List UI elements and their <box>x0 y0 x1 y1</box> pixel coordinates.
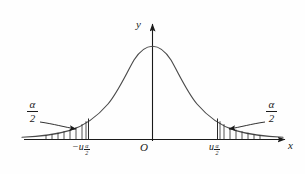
left-area-denominator: 2 <box>27 112 38 124</box>
left-area-numerator: α <box>27 99 38 111</box>
x-axis-label: x <box>288 140 293 151</box>
y-axis-label: y <box>136 19 141 30</box>
right-tick-subscript: α2 <box>214 143 220 156</box>
left-critical-tick-label: −uα2 <box>72 142 90 156</box>
left-tick-sub-denominator: 2 <box>84 150 90 156</box>
right-area-label: α 2 <box>266 99 277 124</box>
figure-canvas <box>0 0 305 174</box>
right-tick-sub-denominator: 2 <box>214 150 220 156</box>
normal-distribution-figure: y x O α 2 α 2 −uα2 uα2 <box>0 0 305 174</box>
right-area-denominator: 2 <box>266 112 277 124</box>
left-tick-base: −u <box>72 141 84 152</box>
left-annotation-leader <box>40 122 76 129</box>
left-area-label: α 2 <box>27 99 38 124</box>
right-annotation-leader <box>229 122 265 129</box>
origin-label: O <box>140 142 148 153</box>
right-area-numerator: α <box>266 99 277 111</box>
left-tick-subscript: α2 <box>84 143 90 156</box>
right-critical-tick-label: uα2 <box>209 142 220 156</box>
